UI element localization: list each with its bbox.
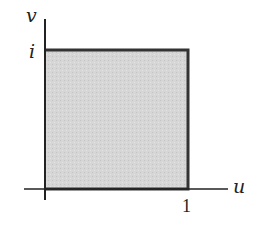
shaded-square-region bbox=[45, 50, 188, 189]
i-tick-label: i bbox=[29, 42, 35, 61]
u-axis-label: u bbox=[233, 177, 245, 196]
v-axis-label: v bbox=[26, 6, 37, 25]
diagram-canvas bbox=[0, 0, 259, 225]
one-tick-label: 1 bbox=[182, 197, 191, 215]
